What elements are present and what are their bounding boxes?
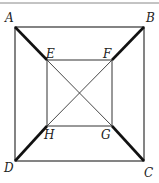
label-a: A	[4, 11, 14, 25]
label-e: E	[45, 47, 55, 61]
segment-hd	[15, 126, 47, 161]
segment-bf	[112, 27, 144, 60]
segment-ae	[15, 27, 47, 60]
geometry-diagram: A B C D E F G H	[0, 0, 159, 183]
label-f: F	[102, 47, 112, 61]
label-g: G	[101, 128, 111, 142]
segment-gc	[112, 126, 144, 161]
label-c: C	[144, 166, 153, 180]
label-h: H	[43, 128, 55, 142]
label-b: B	[145, 11, 155, 25]
label-d: D	[3, 161, 14, 175]
